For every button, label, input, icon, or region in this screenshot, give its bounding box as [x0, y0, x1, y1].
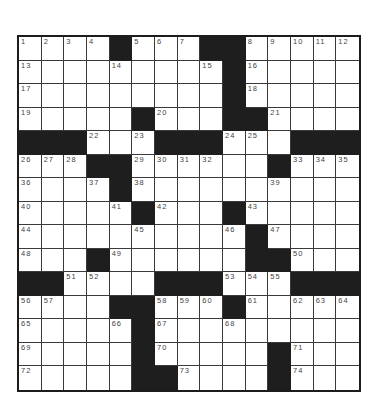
grid-cell[interactable]: 55	[268, 272, 291, 296]
grid-cell[interactable]	[314, 343, 337, 367]
grid-cell[interactable]: 7	[178, 37, 201, 61]
grid-cell[interactable]: 46	[223, 225, 246, 249]
grid-cell[interactable]	[223, 155, 246, 179]
grid-cell[interactable]	[291, 225, 314, 249]
grid-cell[interactable]	[223, 178, 246, 202]
grid-cell[interactable]	[42, 225, 65, 249]
grid-cell[interactable]	[178, 225, 201, 249]
grid-cell[interactable]: 68	[223, 319, 246, 343]
grid-cell[interactable]: 62	[291, 296, 314, 320]
grid-cell[interactable]	[291, 178, 314, 202]
grid-cell[interactable]: 35	[336, 155, 359, 179]
grid-cell[interactable]	[336, 366, 359, 390]
grid-cell[interactable]: 6	[155, 37, 178, 61]
grid-cell[interactable]	[87, 225, 110, 249]
grid-cell[interactable]	[268, 84, 291, 108]
grid-cell[interactable]: 11	[314, 37, 337, 61]
grid-cell[interactable]: 67	[155, 319, 178, 343]
grid-cell[interactable]	[132, 249, 155, 273]
grid-cell[interactable]	[87, 61, 110, 85]
grid-cell[interactable]: 19	[19, 108, 42, 132]
grid-cell[interactable]	[268, 296, 291, 320]
grid-cell[interactable]: 29	[132, 155, 155, 179]
grid-cell[interactable]	[132, 61, 155, 85]
grid-cell[interactable]	[200, 249, 223, 273]
grid-cell[interactable]	[178, 319, 201, 343]
grid-cell[interactable]	[87, 108, 110, 132]
grid-cell[interactable]: 40	[19, 202, 42, 226]
grid-cell[interactable]	[200, 319, 223, 343]
grid-cell[interactable]: 27	[42, 155, 65, 179]
grid-cell[interactable]: 34	[314, 155, 337, 179]
grid-cell[interactable]	[336, 84, 359, 108]
grid-cell[interactable]: 57	[42, 296, 65, 320]
grid-cell[interactable]	[155, 225, 178, 249]
grid-cell[interactable]	[200, 366, 223, 390]
grid-cell[interactable]: 49	[110, 249, 133, 273]
grid-cell[interactable]	[42, 249, 65, 273]
grid-cell[interactable]: 8	[246, 37, 269, 61]
grid-cell[interactable]	[64, 61, 87, 85]
grid-cell[interactable]	[155, 84, 178, 108]
grid-cell[interactable]	[178, 343, 201, 367]
grid-cell[interactable]	[42, 366, 65, 390]
grid-cell[interactable]: 64	[336, 296, 359, 320]
grid-cell[interactable]	[155, 249, 178, 273]
grid-cell[interactable]	[110, 131, 133, 155]
grid-cell[interactable]	[42, 178, 65, 202]
grid-cell[interactable]	[291, 108, 314, 132]
grid-cell[interactable]	[336, 202, 359, 226]
grid-cell[interactable]: 22	[87, 131, 110, 155]
grid-cell[interactable]: 10	[291, 37, 314, 61]
grid-cell[interactable]: 9	[268, 37, 291, 61]
grid-cell[interactable]: 41	[110, 202, 133, 226]
grid-cell[interactable]	[200, 108, 223, 132]
grid-cell[interactable]: 12	[336, 37, 359, 61]
grid-cell[interactable]: 73	[178, 366, 201, 390]
grid-cell[interactable]	[110, 225, 133, 249]
grid-cell[interactable]: 25	[246, 131, 269, 155]
grid-cell[interactable]: 69	[19, 343, 42, 367]
grid-cell[interactable]: 58	[155, 296, 178, 320]
grid-cell[interactable]	[246, 155, 269, 179]
grid-cell[interactable]: 65	[19, 319, 42, 343]
grid-cell[interactable]	[64, 296, 87, 320]
grid-cell[interactable]	[42, 84, 65, 108]
grid-cell[interactable]	[314, 108, 337, 132]
grid-cell[interactable]: 74	[291, 366, 314, 390]
grid-cell[interactable]: 15	[200, 61, 223, 85]
grid-cell[interactable]: 32	[200, 155, 223, 179]
grid-cell[interactable]	[110, 343, 133, 367]
grid-cell[interactable]	[223, 366, 246, 390]
grid-cell[interactable]	[64, 319, 87, 343]
grid-cell[interactable]: 24	[223, 131, 246, 155]
grid-cell[interactable]	[291, 84, 314, 108]
grid-cell[interactable]: 1	[19, 37, 42, 61]
grid-cell[interactable]	[178, 249, 201, 273]
grid-cell[interactable]	[64, 178, 87, 202]
grid-cell[interactable]: 14	[110, 61, 133, 85]
grid-cell[interactable]: 36	[19, 178, 42, 202]
grid-cell[interactable]: 53	[223, 272, 246, 296]
grid-cell[interactable]: 60	[200, 296, 223, 320]
grid-cell[interactable]: 31	[178, 155, 201, 179]
grid-cell[interactable]: 20	[155, 108, 178, 132]
grid-cell[interactable]	[336, 225, 359, 249]
grid-cell[interactable]	[246, 343, 269, 367]
grid-cell[interactable]: 37	[87, 178, 110, 202]
grid-cell[interactable]: 48	[19, 249, 42, 273]
grid-cell[interactable]	[291, 61, 314, 85]
grid-cell[interactable]: 13	[19, 61, 42, 85]
grid-cell[interactable]: 72	[19, 366, 42, 390]
grid-cell[interactable]	[110, 108, 133, 132]
grid-cell[interactable]: 44	[19, 225, 42, 249]
grid-cell[interactable]: 17	[19, 84, 42, 108]
grid-cell[interactable]	[64, 343, 87, 367]
grid-cell[interactable]	[87, 84, 110, 108]
grid-cell[interactable]	[314, 366, 337, 390]
grid-cell[interactable]	[42, 61, 65, 85]
grid-cell[interactable]: 59	[178, 296, 201, 320]
grid-cell[interactable]	[64, 249, 87, 273]
grid-cell[interactable]: 50	[291, 249, 314, 273]
grid-cell[interactable]	[200, 225, 223, 249]
